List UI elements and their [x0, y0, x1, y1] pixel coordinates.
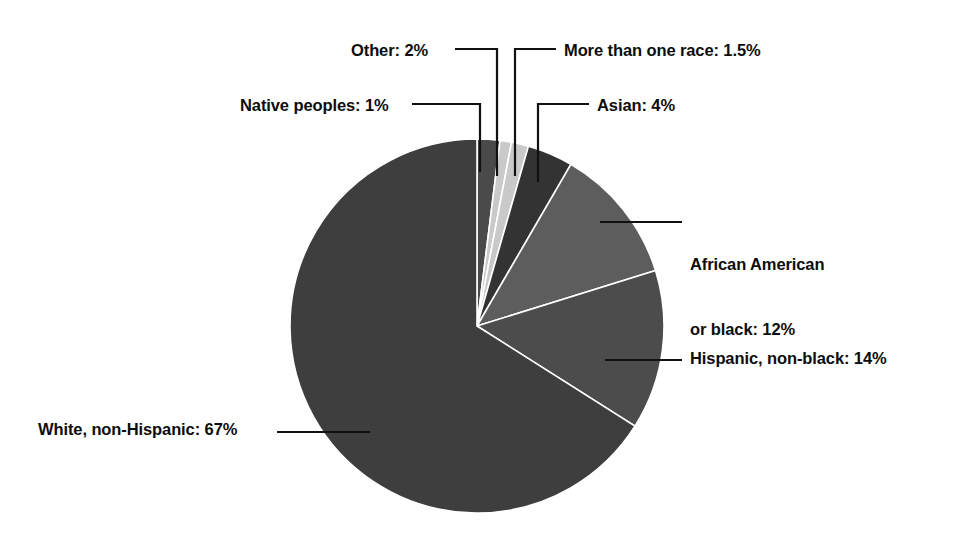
slice-label-hispanic: Hispanic, non-black: 14% — [690, 348, 887, 370]
slice-label-asian: Asian: 4% — [597, 95, 675, 117]
slice-label-african-american-line1: African American — [690, 254, 824, 276]
slice-label-native-peoples: Native peoples: 1% — [240, 95, 389, 117]
slice-label-white: White, non-Hispanic: 67% — [38, 419, 237, 441]
slice-label-more-than-one-race: More than one race: 1.5% — [564, 40, 761, 62]
slice-label-african-american-line2: or black: 12% — [690, 319, 824, 341]
pie-chart: Other: 2% Native peoples: 1% More than o… — [0, 0, 960, 534]
slice-label-other: Other: 2% — [351, 40, 428, 62]
pie-slices — [290, 139, 664, 513]
